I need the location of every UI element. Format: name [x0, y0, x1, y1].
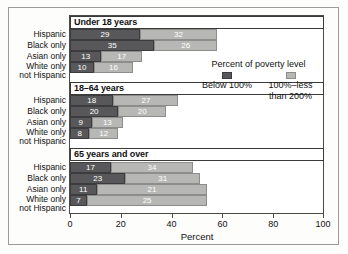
x-tick-20 [121, 214, 122, 218]
x-tick-40 [172, 214, 173, 218]
bar-segment-100-200: 34 [111, 162, 193, 173]
bar-segment-below-100: 23 [70, 173, 125, 184]
category-label-white-only-g2: White only not Hispanic [0, 195, 66, 212]
legend-swatch-100-200 [286, 72, 296, 79]
x-tick-80 [273, 214, 274, 218]
category-text: Hispanic [33, 162, 66, 172]
bar-segment-below-100: 8 [70, 128, 89, 139]
x-tick-label-20: 20 [107, 219, 135, 229]
category-text: Asian only [27, 117, 66, 127]
bar-segment-below-100: 20 [70, 106, 118, 117]
bar-segment-100-200: 27 [113, 95, 178, 106]
category-text: Hispanic [33, 95, 66, 105]
bar-segment-below-100: 18 [70, 95, 113, 106]
bar-segment-100-200: 21 [97, 184, 208, 195]
category-text: Hispanic [33, 29, 66, 39]
x-tick-label-100: 100 [309, 219, 337, 229]
category-text-line2: not Hispanic [0, 204, 66, 213]
category-label-hispanic-g0: Hispanic [0, 30, 66, 39]
bar-segment-100-200: 16 [94, 62, 133, 73]
category-label-black-only-g0: Black only [0, 41, 66, 50]
category-text-line2: not Hispanic [0, 137, 66, 146]
bar-segment-below-100: 9 [70, 117, 92, 128]
group-header-label: 18–64 years [74, 83, 124, 93]
x-tick-label-80: 80 [259, 219, 287, 229]
group-header-label: 65 years and over [74, 149, 148, 159]
bar-segment-below-100: 10 [70, 62, 94, 73]
legend-label-below-100: Below 100% [196, 80, 258, 91]
category-text: Asian only [27, 51, 66, 61]
category-text: Asian only [27, 184, 66, 194]
category-text: Black only [27, 106, 66, 116]
chart-figure: Under 18 years Hispanic 29 32 Black only… [0, 0, 348, 254]
chart-legend: Percent of poverty level Below 100% 100%… [196, 59, 321, 106]
category-label-hispanic-g1: Hispanic [0, 96, 66, 105]
bar-segment-100-200: 13 [92, 117, 123, 128]
x-tick-label-40: 40 [158, 219, 186, 229]
bar-segment-100-200: 20 [118, 106, 166, 117]
category-label-hispanic-g2: Hispanic [0, 163, 66, 172]
bar-segment-100-200: 26 [154, 40, 217, 51]
bar-segment-100-200: 31 [125, 173, 200, 184]
x-tick-label-0: 0 [56, 219, 84, 229]
category-text: Black only [27, 173, 66, 183]
legend-label-100-200-line1: 100%–less [260, 80, 321, 91]
x-axis-line [70, 213, 324, 214]
x-tick-label-60: 60 [208, 219, 236, 229]
legend-entry-below-100: Below 100% [196, 72, 258, 91]
bar-segment-100-200: 32 [140, 29, 217, 40]
x-axis-title: Percent [147, 231, 247, 242]
bar-segment-below-100: 29 [70, 29, 140, 40]
bar-segment-100-200: 12 [89, 128, 118, 139]
bar-segment-below-100: 7 [70, 195, 87, 206]
category-text: Black only [27, 40, 66, 50]
bar-segment-100-200: 17 [101, 51, 142, 62]
group-header-65-over: 65 years and over [70, 148, 324, 161]
legend-entries: Below 100% 100%–less than 200% [196, 72, 321, 106]
x-tick-60 [222, 214, 223, 218]
legend-swatch-below-100 [222, 72, 232, 79]
category-label-white-only-g1: White only not Hispanic [0, 128, 66, 145]
group-header-label: Under 18 years [74, 17, 137, 27]
category-label-white-only-g0: White only not Hispanic [0, 62, 66, 79]
x-tick-100 [323, 214, 324, 218]
x-tick-0 [70, 214, 71, 218]
category-text-line2: not Hispanic [0, 71, 66, 80]
legend-title: Percent of poverty level [196, 59, 321, 70]
group-header-under-18: Under 18 years [70, 16, 324, 29]
category-label-asian-only-g0: Asian only [0, 52, 66, 61]
bar-segment-100-200: 25 [87, 195, 207, 206]
category-label-asian-only-g1: Asian only [0, 118, 66, 127]
legend-label-100-200-line2: than 200% [260, 91, 321, 102]
bar-segment-below-100: 11 [70, 184, 97, 195]
bar-segment-below-100: 17 [70, 162, 111, 173]
legend-entry-100-200: 100%–less than 200% [260, 72, 321, 101]
category-label-black-only-g2: Black only [0, 174, 66, 183]
category-label-asian-only-g2: Asian only [0, 185, 66, 194]
category-label-black-only-g1: Black only [0, 107, 66, 116]
bar-segment-below-100: 35 [70, 40, 154, 51]
bar-segment-below-100: 13 [70, 51, 101, 62]
